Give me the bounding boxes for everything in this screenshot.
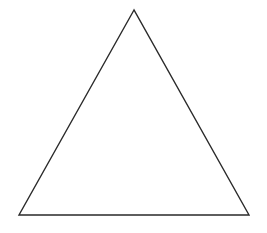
triangle-shape: [19, 10, 249, 215]
triangle-figure: [0, 0, 267, 233]
diagram-canvas: [0, 0, 267, 233]
